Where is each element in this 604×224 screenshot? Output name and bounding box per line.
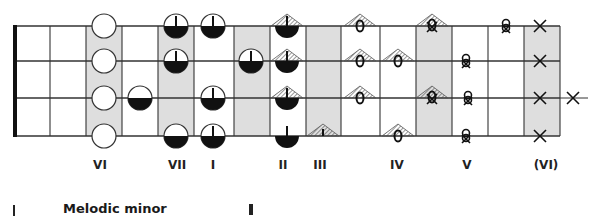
degree-label-vi-octave: (VI)	[534, 158, 559, 172]
marker-open-circle	[92, 86, 116, 110]
degree-label-ii: II	[279, 158, 288, 172]
marker-tent-half-circle	[271, 86, 303, 110]
marker-tent-o	[382, 49, 414, 67]
marker-half-circle-stem	[201, 124, 225, 148]
marker-tent-half-circle	[271, 49, 303, 73]
marker-half-circle	[128, 86, 152, 110]
marker-open-circle	[92, 14, 116, 38]
fretboard-diagram	[0, 0, 604, 160]
marker-half-circle-stem	[164, 49, 188, 73]
marker-tent-half-circle	[271, 14, 303, 38]
shaded-column	[416, 26, 452, 136]
marker-half-circle-stem	[239, 49, 263, 73]
shaded-column	[306, 26, 341, 136]
marker-half-circle-stem	[164, 14, 188, 38]
shaded-column	[86, 26, 122, 136]
marker-tent-o	[382, 124, 414, 142]
degree-label-vi: VI	[93, 158, 107, 172]
marker-half-circle-stem	[201, 86, 225, 110]
degree-label-v: V	[462, 158, 471, 172]
shaded-column	[524, 26, 560, 136]
marker-knot	[502, 20, 510, 34]
shaded-fret-columns	[86, 26, 560, 136]
marker-half-circle-stem	[201, 14, 225, 38]
marker-knot	[462, 130, 470, 144]
marker-half-circle	[164, 124, 188, 148]
shaded-column	[158, 26, 194, 136]
marker-open-circle	[92, 124, 116, 148]
caption-marker-bold	[249, 204, 253, 215]
degree-label-iv: IV	[390, 158, 404, 172]
caption-title: Melodic minor	[63, 201, 167, 216]
marker-tent-o	[344, 49, 376, 67]
marker-knot	[464, 92, 472, 106]
degree-label-iii: III	[313, 158, 326, 172]
nut	[13, 25, 17, 137]
caption-marker	[13, 205, 15, 216]
marker-tent-o	[344, 86, 376, 104]
degree-label-vii: VII	[168, 158, 186, 172]
shaded-column	[234, 26, 270, 136]
marker-knot	[462, 55, 470, 69]
marker-half-disc-stem	[275, 126, 299, 148]
marker-tent-o	[344, 14, 376, 32]
degree-label-i: I	[211, 158, 215, 172]
marker-open-circle	[92, 49, 116, 73]
